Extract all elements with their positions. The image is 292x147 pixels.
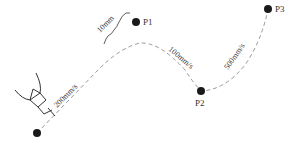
tool-nozzle-icon xyxy=(15,73,55,116)
speed-label-segment2: 100mm/s xyxy=(167,45,196,71)
motion-path xyxy=(37,9,268,133)
speed-label-segment1: 200mm/s xyxy=(52,82,79,109)
diagram-svg: P1 P2 P3 10mm 200mm/s 100mm/s 500mm/s xyxy=(0,0,292,147)
point-p2 xyxy=(197,87,205,95)
start-point xyxy=(33,129,41,137)
label-p3: P3 xyxy=(275,4,285,14)
label-p2: P2 xyxy=(195,98,205,108)
motion-path-diagram: P1 P2 P3 10mm 200mm/s 100mm/s 500mm/s xyxy=(0,0,292,147)
label-p1: P1 xyxy=(143,17,153,27)
point-p3 xyxy=(264,5,272,13)
point-p1 xyxy=(132,18,140,26)
